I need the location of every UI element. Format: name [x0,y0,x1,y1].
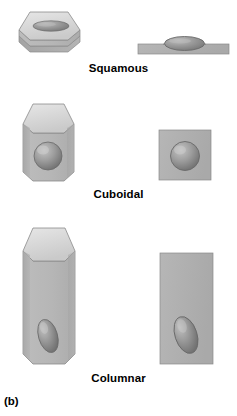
epithelial-cell-shapes-figure: Squamous Cuboidal Columnar (b) [0,0,237,416]
squamous-cell-3d [19,12,80,52]
columnar-cell-section [160,253,213,364]
squamous-section-nucleus-highlight [169,38,191,43]
cell-label-squamous: Squamous [0,62,237,74]
columnar-prism-right-facet [68,251,75,360]
cuboidal-section-nucleus-highlight [174,146,186,155]
columnar-cell-3d [23,228,75,364]
cuboidal-prism-left-facet [23,124,30,177]
cuboidal-prism-top-face [23,104,74,133]
columnar-prism-left-facet [23,251,30,360]
columnar-prism-top-face [23,228,75,261]
cuboidal-cell-3d [23,104,74,181]
squamous-nucleus-highlight [36,22,56,26]
cuboidal-nucleus-highlight [37,146,49,155]
cuboidal-nucleus-section [171,142,200,171]
cell-label-columnar: Columnar [0,372,237,384]
cell-label-cuboidal: Cuboidal [0,188,237,200]
panel-caption: (b) [4,395,19,407]
squamous-nucleus-section [165,37,205,51]
cuboidal-prism-right-facet [67,124,74,177]
squamous-cell-section [138,37,229,55]
cuboidal-nucleus-3d [34,142,62,170]
cuboidal-cell-section [159,130,211,180]
